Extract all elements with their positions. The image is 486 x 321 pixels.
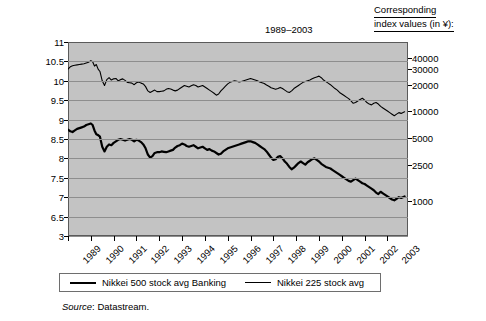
x-tick-label: 2002 — [377, 243, 400, 266]
right-tick-label: 5000 — [412, 133, 433, 144]
x-tick-mark — [273, 236, 274, 241]
x-tick-label: 1992 — [149, 243, 172, 266]
y-tick-label: 11 — [54, 37, 64, 48]
gridline — [68, 139, 408, 140]
x-tick-label: 1989 — [80, 243, 103, 266]
right-tick-mark — [408, 165, 412, 166]
x-tick-mark — [68, 236, 69, 241]
right-axis-ticks: 40000300002000010000500025001000 — [412, 42, 482, 236]
x-tick-mark — [387, 236, 388, 241]
y-axis-ticks: 1110.5109.598.587.576.53 — [28, 42, 64, 236]
right-tick-mark — [408, 111, 412, 112]
chart-legend: Nikkei 500 stock avg Banking Nikkei 225 … — [59, 273, 381, 292]
legend-swatch-line-thin — [245, 282, 271, 283]
right-tick-mark — [408, 201, 412, 202]
legend-swatch-line-thick — [70, 282, 96, 284]
right-tick-mark — [408, 138, 412, 139]
x-tick-label: 1997 — [263, 243, 286, 266]
source-text: : Datastream. — [92, 301, 149, 312]
y-tick-label: 8.5 — [51, 134, 64, 145]
y-tick-label: 10.5 — [46, 56, 65, 67]
x-tick-label: 2000 — [331, 243, 354, 266]
y-tick-label: 10 — [53, 75, 64, 86]
gridline — [68, 217, 408, 218]
chart-title: 1989–2003 — [265, 24, 313, 35]
x-tick-mark — [91, 236, 92, 241]
y-tick-label: 6.5 — [51, 211, 64, 222]
x-tick-label: 1991 — [126, 243, 149, 266]
right-tick-mark — [408, 69, 412, 70]
right-axis-caption: Corresponding index values (in ¥): — [374, 4, 454, 32]
x-tick-label: 2001 — [354, 243, 377, 266]
legend-label-0: Nikkei 500 stock avg Banking — [102, 277, 226, 288]
x-tick-label: 1994 — [194, 243, 217, 266]
gridline — [68, 100, 408, 101]
chart-page: Corresponding index values (in ¥): 1989–… — [0, 0, 486, 321]
x-tick-label: 1995 — [217, 243, 240, 266]
x-tick-label: 1993 — [171, 243, 194, 266]
series-line-0 — [68, 61, 405, 116]
gridline — [68, 120, 408, 121]
gridline — [68, 197, 408, 198]
right-tick-label: 1000 — [412, 195, 433, 206]
gridline — [68, 178, 408, 179]
right-tick-label: 30000 — [412, 63, 438, 74]
x-tick-label: 1998 — [286, 243, 309, 266]
right-axis-caption-line1: Corresponding — [374, 4, 436, 18]
legend-item-0: Nikkei 500 stock avg Banking — [70, 274, 226, 291]
source-label: Source — [62, 301, 92, 312]
x-tick-mark — [159, 236, 160, 241]
x-tick-mark — [251, 236, 252, 241]
x-tick-mark — [342, 236, 343, 241]
x-tick-mark — [296, 236, 297, 241]
right-tick-mark — [408, 58, 412, 59]
gridline — [68, 81, 408, 82]
x-tick-mark — [114, 236, 115, 241]
y-tick-label: 9.5 — [51, 95, 64, 106]
x-tick-label: 1999 — [308, 243, 331, 266]
x-axis: 1989199019911992199319941995199619971998… — [68, 236, 408, 276]
x-tick-mark — [205, 236, 206, 241]
right-tick-label: 40000 — [412, 52, 438, 63]
x-tick-mark — [228, 236, 229, 241]
x-tick-mark — [365, 236, 366, 241]
x-tick-label: 1990 — [103, 243, 126, 266]
x-tick-mark — [319, 236, 320, 241]
gridline — [68, 61, 408, 62]
plot-area — [68, 42, 408, 236]
legend-label-1: Nikkei 225 stock avg — [277, 277, 364, 288]
right-tick-label: 20000 — [412, 79, 438, 90]
right-tick-mark — [408, 85, 412, 86]
y-tick-label: 7.5 — [51, 172, 64, 183]
gridline — [68, 158, 408, 159]
x-tick-label: 2003 — [400, 243, 423, 266]
legend-item-1: Nikkei 225 stock avg — [245, 274, 364, 291]
source-note: Source: Datastream. — [62, 301, 149, 312]
right-tick-label: 2500 — [412, 160, 433, 171]
x-tick-label: 1996 — [240, 243, 263, 266]
x-tick-mark — [182, 236, 183, 241]
right-tick-label: 10000 — [412, 106, 438, 117]
x-tick-mark — [136, 236, 137, 241]
series-line-1 — [68, 123, 405, 200]
right-axis-caption-line2: index values (in ¥): — [374, 18, 454, 32]
